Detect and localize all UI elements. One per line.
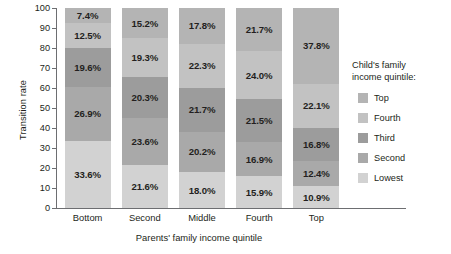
y-axis-tick-mark — [52, 88, 56, 89]
bar-segment: 19.3% — [122, 38, 168, 77]
legend-swatch — [358, 133, 368, 143]
legend-item[interactable]: Top — [358, 88, 448, 108]
legend-item[interactable]: Second — [358, 148, 448, 168]
bar-segment: 21.7% — [179, 88, 225, 131]
bar-segment-label: 10.9% — [303, 192, 330, 203]
legend-item-label: Third — [374, 133, 395, 143]
x-axis-tick-label: Top — [281, 212, 351, 223]
bar-column: 21.6%23.6%20.3%19.3%15.2% — [122, 8, 168, 208]
y-axis-tick-mark — [52, 128, 56, 129]
bar-segment-label: 24.0% — [246, 70, 273, 81]
bar-segment: 7.4% — [65, 8, 111, 23]
bar-segment-label: 17.8% — [189, 20, 216, 31]
bar-segment: 19.6% — [65, 48, 111, 87]
legend: Child's family income quintile: TopFourt… — [352, 60, 448, 188]
bar-segment: 23.6% — [122, 118, 168, 165]
bar-segment: 21.7% — [236, 8, 282, 51]
bar-segment: 10.9% — [293, 186, 339, 208]
bar-segment: 15.9% — [236, 176, 282, 208]
bar-segment-label: 21.6% — [131, 181, 158, 192]
y-axis-tick-label: 10 — [22, 184, 50, 193]
bar-segment-label: 18.0% — [189, 185, 216, 196]
y-axis-tick-label: 50 — [22, 104, 50, 113]
bar-segment-label: 22.3% — [189, 60, 216, 71]
legend-swatch — [358, 93, 368, 103]
bar-segment: 22.1% — [293, 84, 339, 128]
y-axis-tick-label: 20 — [22, 164, 50, 173]
legend-item[interactable]: Lowest — [358, 168, 448, 188]
stacked-bar-chart: Transition rate 0102030405060708090100 3… — [0, 0, 451, 254]
bar-column: 33.6%26.9%19.6%12.5%7.4% — [65, 8, 111, 208]
bar-segment-label: 19.6% — [74, 62, 101, 73]
bar-segment: 20.2% — [179, 132, 225, 172]
bar-segment-label: 20.3% — [131, 92, 158, 103]
bar-column: 15.9%16.9%21.5%24.0%21.7% — [236, 8, 282, 208]
x-axis-title: Parents' family income quintile — [56, 232, 342, 243]
bar-segment-label: 15.9% — [246, 187, 273, 198]
legend-items: TopFourthThirdSecondLowest — [352, 88, 448, 188]
y-axis-tick-mark — [52, 8, 56, 9]
y-axis-tick-mark — [52, 48, 56, 49]
legend-swatch — [358, 173, 368, 183]
y-axis-tick-label: 70 — [22, 64, 50, 73]
bar-segment-label: 20.2% — [189, 146, 216, 157]
legend-item-label: Second — [374, 153, 405, 163]
bar-segment: 16.8% — [293, 128, 339, 162]
bar-segment: 15.2% — [122, 8, 168, 38]
y-axis-tick-label: 100 — [22, 4, 50, 13]
legend-swatch — [358, 113, 368, 123]
bar-segment-label: 15.2% — [131, 18, 158, 29]
bar-segment: 21.6% — [122, 165, 168, 208]
bar-segment-label: 12.4% — [303, 168, 330, 179]
legend-swatch — [358, 153, 368, 163]
y-axis-tick-label: 80 — [22, 44, 50, 53]
bar-segment: 20.3% — [122, 77, 168, 118]
bar-segment: 16.9% — [236, 142, 282, 176]
bar-segment: 33.6% — [65, 141, 111, 208]
legend-item[interactable]: Fourth — [358, 108, 448, 128]
bar-segment: 22.3% — [179, 44, 225, 89]
bar-segment-label: 12.5% — [74, 30, 101, 41]
bar-segment: 12.4% — [293, 161, 339, 186]
y-axis-tick-mark — [52, 148, 56, 149]
legend-item[interactable]: Third — [358, 128, 448, 148]
y-axis-tick-mark — [52, 108, 56, 109]
bar-column: 18.0%20.2%21.7%22.3%17.8% — [179, 8, 225, 208]
legend-item-label: Top — [374, 93, 389, 103]
y-axis-tick-label: 0 — [22, 204, 50, 213]
y-axis-tick-label: 30 — [22, 144, 50, 153]
bar-segment-label: 21.5% — [246, 115, 273, 126]
bar-segment-label: 21.7% — [189, 104, 216, 115]
y-axis-tick-mark — [52, 68, 56, 69]
bar-segment-label: 16.9% — [246, 154, 273, 165]
bar-segment: 17.8% — [179, 8, 225, 44]
bar-segment: 26.9% — [65, 87, 111, 141]
legend-item-label: Fourth — [374, 113, 401, 123]
bar-segment: 12.5% — [65, 23, 111, 48]
bar-segment-label: 7.4% — [77, 10, 98, 21]
bar-segment-label: 33.6% — [74, 169, 101, 180]
y-axis-tick-mark — [52, 188, 56, 189]
y-axis-tick-mark — [52, 28, 56, 29]
bar-segment-label: 26.9% — [74, 108, 101, 119]
bar-segment-label: 21.7% — [246, 24, 273, 35]
x-axis-line — [56, 208, 406, 209]
y-axis-tick-mark — [52, 168, 56, 169]
bar-segment: 24.0% — [236, 51, 282, 99]
legend-item-label: Lowest — [374, 173, 403, 183]
bar-segment-label: 37.8% — [303, 40, 330, 51]
bar-segment-label: 16.8% — [303, 139, 330, 150]
legend-title: Child's family income quintile: — [352, 60, 448, 83]
y-axis-line — [56, 8, 57, 208]
y-axis-tick-label: 60 — [22, 84, 50, 93]
plot-area: 33.6%26.9%19.6%12.5%7.4%21.6%23.6%20.3%1… — [56, 8, 342, 208]
y-axis-tick-label: 90 — [22, 24, 50, 33]
y-axis-tick-label: 40 — [22, 124, 50, 133]
y-axis-tick-labels: 0102030405060708090100 — [22, 8, 50, 208]
bar-segment-label: 23.6% — [131, 136, 158, 147]
bar-segment-label: 19.3% — [131, 52, 158, 63]
y-axis-tick-mark — [52, 208, 56, 209]
bar-column: 10.9%12.4%16.8%22.1%37.8% — [293, 8, 339, 208]
bar-segment-label: 22.1% — [303, 100, 330, 111]
bar-segment: 18.0% — [179, 172, 225, 208]
